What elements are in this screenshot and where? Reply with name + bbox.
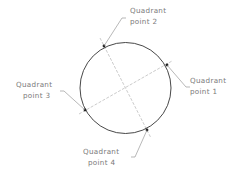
- label-q2-line2: point 2: [130, 17, 157, 26]
- label-q2-line1: Quadrant: [130, 6, 166, 15]
- centerline-q2-q4: [100, 38, 151, 138]
- leader-q4: [131, 130, 147, 157]
- label-q1-line2: point 1: [190, 87, 217, 96]
- label-q1-line1: Quadrant: [190, 76, 226, 85]
- quadrant-diagram: Quadrant point 2 Quadrant point 1 Quadra…: [0, 0, 242, 178]
- label-q4-line1: Quadrant: [83, 147, 119, 156]
- leader-q2: [104, 18, 126, 46]
- label-q4-line2: point 4: [88, 158, 115, 167]
- label-q3-line1: Quadrant: [16, 80, 52, 89]
- label-q3-line2: point 3: [23, 91, 50, 100]
- leader-q3: [60, 91, 85, 110]
